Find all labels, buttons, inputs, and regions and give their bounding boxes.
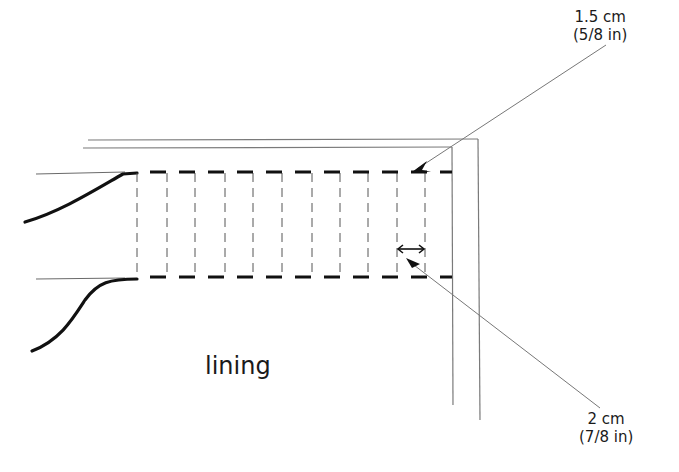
diagram-canvas: 1.5 cm (5/8 in) 2 cm (7/8 in) lining [0, 0, 679, 472]
annotation-imperial: (7/8 in) [579, 430, 633, 445]
leader-arrowheads [406, 161, 431, 268]
lining-label: lining [205, 354, 271, 378]
left-edge-lines [36, 172, 125, 279]
double-arrow-icon [398, 245, 424, 253]
vertical-stitch-lines [137, 173, 425, 278]
annotation-stitch-spacing: 2 cm (7/8 in) [579, 412, 633, 445]
annotation-imperial: (5/8 in) [573, 28, 627, 43]
annotation-seam-allowance: 1.5 cm (5/8 in) [573, 10, 627, 43]
annotation-metric: 2 cm [579, 412, 633, 427]
curved-fabric-edges [25, 173, 137, 351]
sketch-drawing [0, 0, 679, 472]
annotation-metric: 1.5 cm [573, 10, 627, 25]
leader-lines [410, 45, 606, 408]
